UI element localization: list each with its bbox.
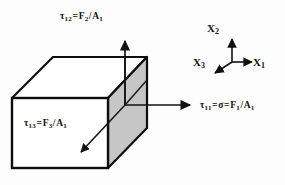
axis-label-x3-name: X [193,56,201,68]
label-tau12: τ12=F2/A1 [60,11,103,23]
axis-label-x1: X1 [253,56,265,70]
axis-label-x3-subscript: 3 [201,61,205,70]
label-tau13-area-subscript: 1 [63,122,67,130]
label-tau11: τ11=σ=F1/A1 [200,100,255,112]
box-front-face [12,98,108,168]
label-tau12-area-subscript: 1 [99,15,103,23]
axis-label-x1-name: X [253,56,261,68]
label-tau11-area: A [244,100,251,110]
axis-label-x1-subscript: 1 [261,61,265,70]
axis-x3-arrow [215,62,232,73]
axis-label-x2: X2 [207,22,219,36]
label-tau12-subscript: 12 [65,15,72,23]
axis-label-x2-subscript: 2 [215,27,219,36]
label-tau13: τ13=F3/A1 [24,118,67,130]
label-tau11-subscript: 11 [205,104,212,112]
label-tau13-subscript: 13 [29,122,36,130]
label-tau11-area-subscript: 1 [251,104,255,112]
axis-label-x3: X3 [193,56,205,70]
figure-canvas: τ12=F2/A1 τ13=F3/A1 τ11=σ=F1/A1 X2 X1 X3 [0,0,285,185]
stress-element-drawing [0,0,285,185]
label-tau11-sigma: σ [218,100,223,110]
label-tau13-equals: = [36,118,43,128]
label-tau12-equals: = [72,11,79,21]
axis-label-x2-name: X [207,22,215,34]
